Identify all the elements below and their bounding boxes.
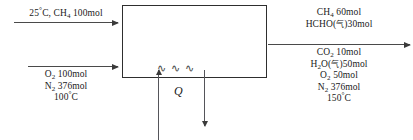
outlet-bottom-line-3: O2 50mol	[268, 70, 410, 82]
outlet-top-line-2: HCHO(气)30mol	[268, 19, 410, 31]
outlet-bottom-line-5: 150°C	[268, 93, 410, 105]
heat-wave-icon: ∿ ∿ ∿	[157, 62, 195, 75]
outlet-bottom-label: CO2 10mol H2O(气)50mol O2 50mol N2 376mol…	[268, 47, 410, 105]
inlet-air-line-1: O2 100mol	[14, 69, 118, 81]
inlet-air-label: O2 100mol N2 376mol 100°C	[14, 69, 118, 104]
outlet-bottom-line-1: CO2 10mol	[268, 47, 410, 59]
heat-symbol-label: Q	[174, 84, 183, 99]
inlet-air-line-3: 100°C	[14, 92, 118, 104]
inlet-methane-label: 25°C, CH4 100mol	[14, 8, 118, 20]
inlet-methane-arrow	[14, 22, 118, 23]
outlet-bottom-line-2: H2O(气)50mol	[268, 59, 410, 71]
inlet-methane-line-1: 25°C, CH4 100mol	[14, 8, 118, 20]
inlet-air-arrow	[28, 66, 118, 67]
process-flow-diagram: 25°C, CH4 100mol O2 100mol N2 376mol 100…	[0, 0, 413, 140]
outlet-arrow	[268, 44, 410, 45]
heat-inlet-arrow	[158, 70, 159, 140]
outlet-top-label: CH4 60mol HCHO(气)30mol	[268, 7, 410, 30]
outlet-top-line-1: CH4 60mol	[268, 7, 410, 19]
inlet-air-line-2: N2 376mol	[14, 81, 118, 93]
heat-outlet-arrow	[204, 70, 205, 126]
outlet-bottom-line-4: N2 376mol	[268, 82, 410, 94]
reactor-vessel	[122, 5, 267, 78]
